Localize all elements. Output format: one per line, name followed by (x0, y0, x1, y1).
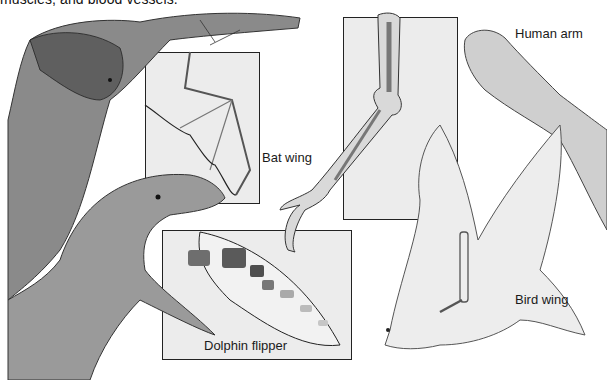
bat-wing-bones (145, 52, 250, 195)
bird-wing-label: Bird wing (515, 292, 568, 307)
human-arm-illustration (280, 13, 401, 252)
dolphin-flipper-label: Dolphin flipper (204, 338, 287, 353)
dolphin-flipper-bones (188, 232, 340, 346)
human-arm-label: Human arm (515, 26, 583, 41)
bat-wing-label: Bat wing (262, 150, 312, 165)
bird-illustration (385, 125, 585, 349)
homologous-structures-illustration (0, 0, 607, 380)
